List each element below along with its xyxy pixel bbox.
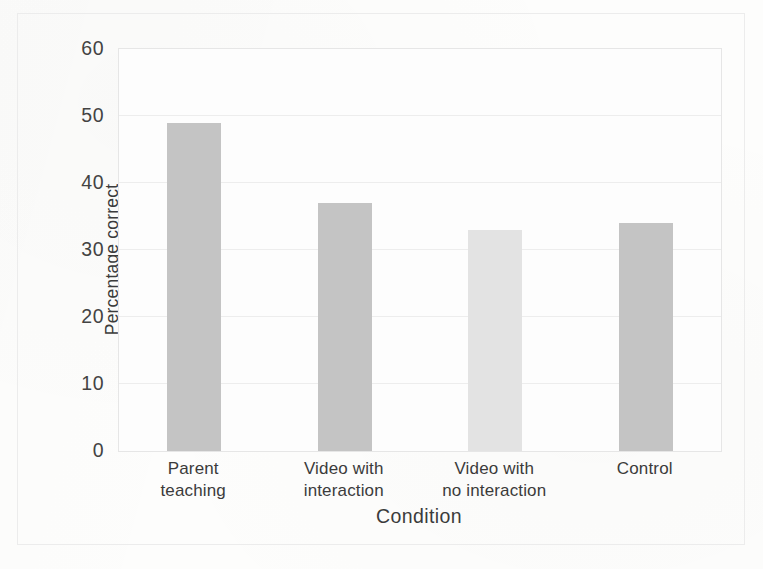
x-category-label-0: Parentteaching — [108, 458, 278, 502]
x-axis-title: Condition — [118, 505, 720, 528]
y-tick-label-50: 50 — [44, 104, 104, 127]
x-label-line: Video with — [409, 458, 579, 480]
bar-1 — [318, 203, 372, 451]
y-tick-label-30: 30 — [44, 238, 104, 261]
y-tick-label-0: 0 — [44, 439, 104, 462]
gridline-50 — [119, 115, 721, 116]
bar-0 — [167, 123, 221, 451]
bar-3 — [619, 223, 673, 451]
x-category-label-3: Control — [560, 458, 730, 480]
y-tick-label-10: 10 — [44, 372, 104, 395]
x-label-line: teaching — [108, 480, 278, 502]
x-label-line: Control — [560, 458, 730, 480]
x-label-line: Parent — [108, 458, 278, 480]
x-label-line: interaction — [259, 480, 429, 502]
plot-area — [118, 48, 722, 452]
x-category-label-2: Video withno interaction — [409, 458, 579, 502]
figure-canvas: 0102030405060 Percentage correct Parentt… — [0, 0, 763, 569]
y-tick-label-40: 40 — [44, 171, 104, 194]
x-category-label-1: Video withinteraction — [259, 458, 429, 502]
y-tick-label-20: 20 — [44, 305, 104, 328]
bar-2 — [468, 230, 522, 451]
x-label-line: no interaction — [409, 480, 579, 502]
y-tick-label-60: 60 — [44, 37, 104, 60]
x-label-line: Video with — [259, 458, 429, 480]
